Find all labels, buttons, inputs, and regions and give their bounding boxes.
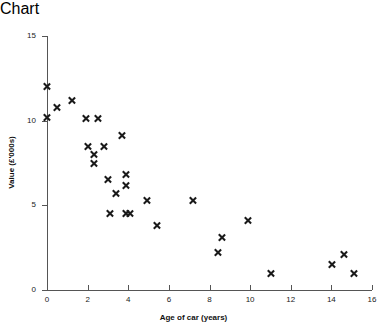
- data-point: [217, 233, 226, 242]
- data-point: [43, 113, 52, 122]
- data-point: [67, 96, 76, 105]
- data-point: [142, 196, 151, 205]
- scatter-chart: 051015 0246810121416 Age of car (years) …: [0, 18, 387, 328]
- data-point: [327, 260, 336, 269]
- data-point: [89, 159, 98, 168]
- data-point: [213, 248, 222, 257]
- data-point: [189, 196, 198, 205]
- data-point: [152, 221, 161, 230]
- y-axis-title: Value (£'000s): [7, 108, 16, 218]
- data-point: [99, 142, 108, 151]
- x-axis-title: Age of car (years): [0, 313, 387, 322]
- data-point: [53, 103, 62, 112]
- data-point: [349, 269, 358, 278]
- data-point: [81, 114, 90, 123]
- data-point: [103, 175, 112, 184]
- data-point: [126, 209, 135, 218]
- data-point: [118, 131, 127, 140]
- data-point: [122, 170, 131, 179]
- data-point: [112, 189, 121, 198]
- data-point: [339, 250, 348, 259]
- data-point: [43, 82, 52, 91]
- data-point: [244, 216, 253, 225]
- data-point: [122, 181, 131, 190]
- data-point: [266, 269, 275, 278]
- data-point: [105, 209, 114, 218]
- data-point: [93, 114, 102, 123]
- data-points-layer: [0, 18, 387, 328]
